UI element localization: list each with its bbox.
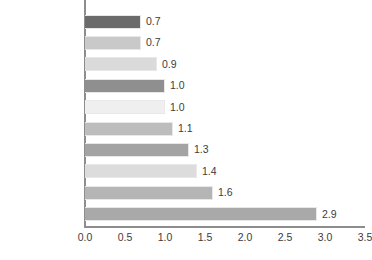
bar-value-label: 0.7 [146,12,161,31]
bar-row: Russian0.9 [85,54,365,75]
bar [85,36,141,50]
bar [85,100,165,114]
x-tick-label: 0.5 [118,231,133,243]
bar-value-label: 1.6 [218,183,233,202]
x-tick-label: 1.0 [158,231,173,243]
bar-value-label: 0.9 [162,55,177,74]
x-tick-label: 2.5 [278,231,293,243]
bar-value-label: 1.0 [170,98,185,117]
bar-value-label: 1.1 [178,119,193,138]
bar-row: Arabic1.0 [85,75,365,96]
bar [85,79,165,93]
bar-value-label: 1.0 [170,76,185,95]
x-tick-label: 0.0 [78,231,93,243]
bar-chart: Italian0.7French Creole0.7Russian0.9Arab… [0,0,372,260]
plot-area: Italian0.7French Creole0.7Russian0.9Arab… [85,0,365,227]
bar [85,164,197,178]
x-tick-label: 3.5 [358,231,372,243]
bar-row: French Creole0.7 [85,32,365,53]
bar-row: Korean1.1 [85,118,365,139]
x-tick-label: 2.0 [238,231,253,243]
bar-row: Italian0.7 [85,11,365,32]
bar-row: Tagalog1.6 [85,182,365,203]
x-tick-label: 3.0 [318,231,333,243]
bar-row: German1.0 [85,97,365,118]
bar-row: Chinese2.9 [85,204,365,225]
bars-layer: Italian0.7French Creole0.7Russian0.9Arab… [85,0,365,227]
bar-row: Vietnamese1.4 [85,161,365,182]
bar [85,143,189,157]
bar [85,15,141,29]
bar [85,207,317,221]
bar-value-label: 0.7 [146,33,161,52]
x-tick-label: 1.5 [198,231,213,243]
bar [85,122,173,136]
bar-value-label: 1.4 [202,162,217,181]
bar-value-label: 1.3 [194,140,209,159]
bar-row: French1.3 [85,139,365,160]
bar [85,186,213,200]
bar-value-label: 2.9 [322,205,337,224]
bar [85,57,157,71]
